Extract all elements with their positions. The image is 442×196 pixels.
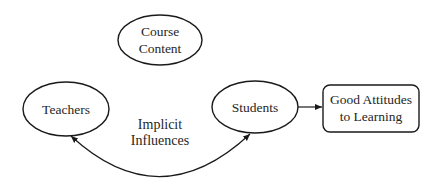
students-label: Students [212,99,298,116]
good-attitudes-label: Good Attitudes to Learning [323,91,419,125]
course-content-label: Course Content [118,23,202,57]
teachers-label: Teachers [23,101,109,118]
implicit-influences-label: Implicit Influences [110,117,210,149]
